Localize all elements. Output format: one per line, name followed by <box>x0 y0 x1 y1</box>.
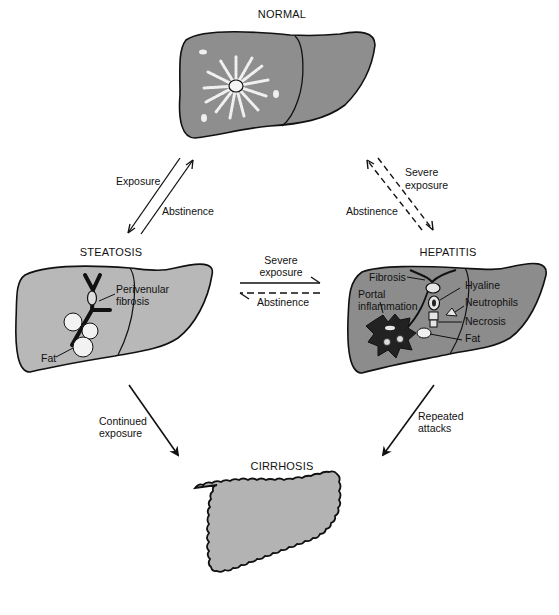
stage-label-hepatitis: HEPATITIS <box>419 246 476 258</box>
liver-disease-diagram: NORMAL Exposure Ab <box>0 0 559 615</box>
stage-label-cirrhosis: CIRRHOSIS <box>251 460 314 472</box>
label-exposure-horizontal: exposure <box>259 266 302 278</box>
label-exposure: Exposure <box>116 175 161 187</box>
cirrhosis-liver <box>195 471 341 571</box>
arrow-abstinence-to-normal <box>141 160 193 234</box>
label-severe-normal-hepatitis: Severe <box>405 166 438 178</box>
label-abstinence-normal-hepatitis: Abstinence <box>346 205 398 217</box>
stage-label-steatosis: STEATOSIS <box>80 246 143 258</box>
stage-label-normal: NORMAL <box>258 8 306 20</box>
normal-liver <box>180 32 375 138</box>
label-hyaline: Hyaline <box>465 279 500 291</box>
label-severe-horizontal: Severe <box>264 254 297 266</box>
label-exposure-normal-hepatitis: exposure <box>405 179 448 191</box>
label-abstinence-horizontal: Abstinence <box>257 296 309 308</box>
label-perivenular: Perivenular <box>116 283 170 295</box>
label-fibrosis-steatosis: fibrosis <box>116 295 149 307</box>
label-portal: Portal <box>358 288 385 300</box>
label-fat-hepatitis: Fat <box>465 332 480 344</box>
label-continued-exposure: exposure <box>99 427 142 439</box>
label-attacks: attacks <box>418 422 451 434</box>
label-fat-steatosis: Fat <box>41 352 56 364</box>
label-continued: Continued <box>99 415 147 427</box>
label-neutrophils: Neutrophils <box>465 296 518 308</box>
label-necrosis: Necrosis <box>465 315 506 327</box>
label-fibrosis-hepatitis: Fibrosis <box>369 271 406 283</box>
label-inflammation: inflammation <box>358 300 418 312</box>
label-repeated: Repeated <box>418 410 464 422</box>
label-abstinence-normal-steatosis: Abstinence <box>162 205 214 217</box>
arrow-exposure <box>128 158 180 233</box>
